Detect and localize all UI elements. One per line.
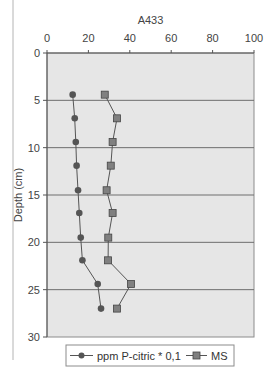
chart-title: A433 <box>138 14 164 26</box>
y-tick-label: 5 <box>34 94 40 106</box>
square-marker-icon <box>113 115 120 122</box>
circle-marker-icon <box>94 281 101 288</box>
square-marker-icon <box>128 280 135 287</box>
x-tick-label: 60 <box>165 32 177 44</box>
square-marker-icon <box>105 234 112 241</box>
chart: A433 020406080100 051015202530 Depth (cm… <box>0 0 273 385</box>
square-marker-icon <box>105 257 112 264</box>
square-marker-icon <box>107 162 114 169</box>
circle-marker-icon <box>75 187 82 194</box>
x-axis: 020406080100 <box>44 32 263 53</box>
square-marker-icon <box>193 352 200 359</box>
circle-marker-icon <box>73 162 80 169</box>
y-tick-label: 25 <box>28 284 40 296</box>
x-tick-label: 80 <box>206 32 218 44</box>
square-marker-icon <box>103 187 110 194</box>
circle-marker-icon <box>69 91 76 98</box>
circle-marker-icon <box>71 115 78 122</box>
x-tick-label: 40 <box>124 32 136 44</box>
y-axis-title: Depth (cm) <box>12 168 24 222</box>
circle-marker-icon <box>79 257 86 264</box>
square-marker-icon <box>109 138 116 145</box>
y-tick-label: 30 <box>28 331 40 343</box>
legend-label: MS <box>211 350 228 362</box>
legend-label: ppm P-citric * 0,1 <box>97 350 181 362</box>
square-marker-icon <box>101 91 108 98</box>
y-tick-label: 15 <box>28 189 40 201</box>
x-tick-label: 100 <box>245 32 263 44</box>
y-tick-label: 10 <box>28 142 40 154</box>
legend: ppm P-citric * 0,1 MS <box>66 345 234 366</box>
x-tick-label: 0 <box>44 32 50 44</box>
circle-marker-icon <box>76 210 83 217</box>
x-tick-label: 20 <box>82 32 94 44</box>
y-axis: 051015202530 <box>28 47 47 343</box>
circle-marker-icon <box>98 305 105 312</box>
y-tick-label: 0 <box>34 47 40 59</box>
square-marker-icon <box>109 209 116 216</box>
circle-marker-icon <box>77 234 84 241</box>
square-marker-icon <box>113 305 120 312</box>
circle-marker-icon <box>79 353 85 359</box>
circle-marker-icon <box>72 139 79 146</box>
y-tick-label: 20 <box>28 236 40 248</box>
